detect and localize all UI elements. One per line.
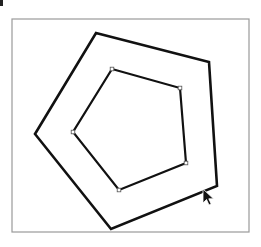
mouse-pointer-icon xyxy=(203,189,214,205)
vertex-handle[interactable] xyxy=(110,67,114,71)
vertex-handle[interactable] xyxy=(71,130,75,134)
vertex-handle[interactable] xyxy=(184,161,188,165)
drawing-canvas[interactable] xyxy=(0,0,261,247)
outer-pentagon[interactable] xyxy=(35,33,217,229)
inner-pentagon[interactable] xyxy=(73,69,186,190)
vertex-handle[interactable] xyxy=(117,188,121,192)
vertex-handle[interactable] xyxy=(178,86,182,90)
